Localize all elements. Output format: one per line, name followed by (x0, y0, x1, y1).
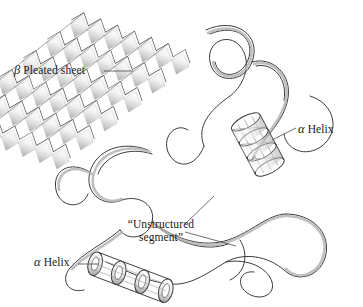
label-unstructured-segment: “Unstructuredsegment” (113, 218, 209, 244)
helix-turn (156, 277, 175, 304)
greek-alpha-symbol: α (298, 122, 305, 136)
label-alpha-right-text: Helix (305, 123, 334, 135)
leader-alpha-helix-right (272, 128, 296, 140)
label-beta-text: Pleated sheet (20, 64, 85, 76)
label-alpha-helix-right: α Helix (298, 123, 334, 136)
label-unstructured-line1: “Unstructured (128, 218, 194, 230)
alpha-helix-left (83, 250, 177, 304)
label-alpha-helix-left: α Helix (34, 256, 70, 269)
greek-alpha-symbol: α (34, 255, 41, 269)
beta-pleated-sheet (0, 0, 194, 200)
label-unstructured-line2: segment” (139, 231, 183, 243)
label-alpha-left-text: Helix (41, 256, 70, 268)
label-beta-pleated-sheet: β Pleated sheet (14, 64, 85, 77)
protein-structure-figure: β Pleated sheet α Helix α Helix “Unstruc… (0, 0, 363, 307)
